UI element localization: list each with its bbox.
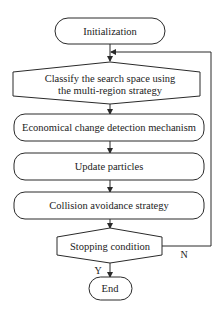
node-classify-label-1: Classify the search space using (45, 73, 176, 84)
node-collision-avoidance: Collision avoidance strategy (14, 192, 204, 219)
node-detection-label: Economical change detection mechanism (22, 122, 196, 133)
edge-no-label: N (180, 249, 187, 260)
node-stopping-condition: Stopping condition (57, 228, 162, 263)
node-stopping-condition-label: Stopping condition (70, 241, 151, 252)
node-initialization-label: Initialization (83, 26, 137, 37)
node-end: End (89, 277, 132, 300)
flowchart: Initialization Classify the search space… (0, 0, 222, 322)
node-update-particles: Update particles (14, 153, 204, 180)
edge-yes-label: Y (94, 265, 101, 276)
node-end-label: End (102, 283, 120, 294)
node-detection: Economical change detection mechanism (14, 114, 204, 141)
node-initialization: Initialization (55, 18, 165, 44)
node-classify-label-2: the multi-region strategy (58, 85, 163, 96)
node-collision-avoidance-label: Collision avoidance strategy (49, 200, 169, 211)
node-update-particles-label: Update particles (75, 161, 144, 172)
node-classify: Classify the search space using the mult… (13, 62, 200, 104)
